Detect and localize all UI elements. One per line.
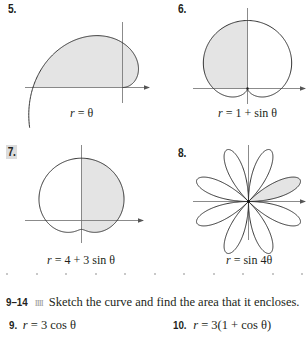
figure-7-graph bbox=[25, 145, 143, 243]
divider-dot bbox=[124, 273, 126, 275]
exercise-range: 9–14 bbox=[6, 296, 28, 308]
problem-equation: = 3(1 + cos θ) bbox=[198, 318, 271, 332]
caption-expression: = θ bbox=[75, 106, 94, 120]
caption-expression: = 1 + sin θ bbox=[223, 106, 277, 120]
divider-dot bbox=[213, 273, 215, 275]
problem-9: 9. r = 3 cos θ bbox=[9, 318, 76, 333]
figure-7-caption: r = 4 + 3 sin θ bbox=[47, 253, 115, 268]
figure-6-caption: r = 1 + sin θ bbox=[218, 106, 277, 121]
divider-dot bbox=[272, 273, 274, 275]
problem-number: 9. bbox=[9, 319, 17, 331]
figure-7-shaded-region bbox=[82, 158, 125, 232]
divider-dot bbox=[301, 273, 303, 275]
divider-dot bbox=[242, 273, 244, 275]
problem-10: 10. r = 3(1 + cos θ) bbox=[173, 318, 271, 333]
figure-8-caption: r = sin 4θ bbox=[226, 253, 272, 268]
exercise-instructions: 9–14 IIII Sketch the curve and find the … bbox=[6, 295, 299, 310]
problem-number: 10. bbox=[173, 319, 187, 331]
problem-equation: = 3 cos θ bbox=[28, 318, 76, 332]
divider-dot bbox=[6, 273, 8, 275]
caption-expression: = 4 + 3 sin θ bbox=[52, 253, 115, 267]
figure-6-shaded-region bbox=[203, 21, 247, 89]
divider-dot bbox=[183, 273, 185, 275]
section-divider bbox=[0, 273, 306, 279]
polar-graphs bbox=[0, 0, 306, 344]
divider-dot bbox=[65, 273, 67, 275]
caption-expression: = sin 4θ bbox=[231, 253, 273, 267]
figure-8-graph bbox=[193, 145, 305, 253]
divider-dot bbox=[36, 273, 38, 275]
figure-6-graph bbox=[193, 8, 305, 104]
figure-5-caption: r = θ bbox=[70, 106, 93, 121]
divider-dot bbox=[95, 273, 97, 275]
exercise-text: Sketch the curve and find the area that … bbox=[49, 295, 300, 309]
divider-dot bbox=[154, 273, 156, 275]
separator-mark: IIII bbox=[35, 298, 43, 308]
